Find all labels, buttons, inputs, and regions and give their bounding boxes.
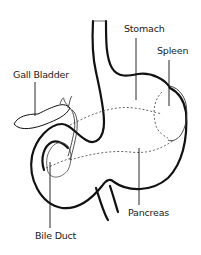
label-stomach: Stomach [124,24,165,34]
label-spleen: Spleen [157,46,188,56]
label-pancreas: Pancreas [128,208,169,218]
label-gall-bladder: Gall Bladder [13,70,69,80]
hepatic-ducts [60,96,77,160]
pancreas-outline [46,92,174,168]
label-bile-duct: Bile Duct [35,231,76,241]
anatomy-diagram [0,0,201,255]
